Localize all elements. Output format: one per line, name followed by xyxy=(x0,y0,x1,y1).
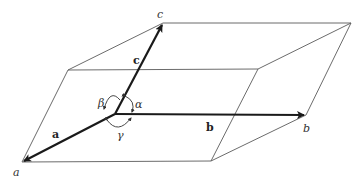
angle-label-beta: β xyxy=(97,97,104,110)
vector-b xyxy=(115,114,304,115)
vector-a xyxy=(24,114,115,161)
angle-label-gamma: γ xyxy=(117,129,124,142)
angle-label-alpha: α xyxy=(135,98,143,111)
edge-left-front xyxy=(22,70,68,162)
unit-cell-diagram: c c a b b a β α γ xyxy=(0,0,361,183)
edge-top-left xyxy=(68,23,163,70)
lattice-vectors xyxy=(24,25,304,161)
vector-label-c: c xyxy=(133,54,140,67)
angle-arcs xyxy=(104,96,133,127)
edge-bottom-right xyxy=(211,115,306,161)
vector-label-b: b xyxy=(206,121,214,134)
vector-label-a: a xyxy=(52,128,59,141)
vertex-label-c: c xyxy=(157,8,163,21)
arc-gamma xyxy=(107,118,131,127)
vertex-label-a: a xyxy=(13,166,20,179)
cell-edges xyxy=(22,23,351,162)
edge-bottom-front xyxy=(22,161,211,162)
edge-top-front xyxy=(68,69,258,70)
edge-top-right xyxy=(258,23,351,69)
arc-alpha xyxy=(125,96,133,112)
edge-right-back xyxy=(306,23,351,115)
vertex-label-b: b xyxy=(303,122,310,135)
